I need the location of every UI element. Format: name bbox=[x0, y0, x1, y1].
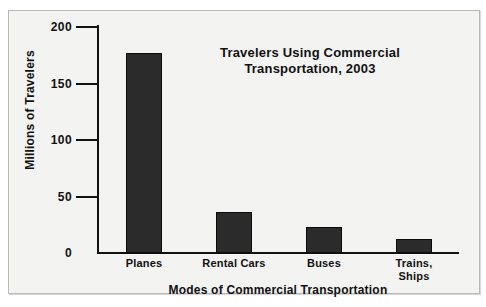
y-tick-label-wrap: 150 bbox=[9, 78, 72, 90]
chart-title: Travelers Using Commercial Transportatio… bbox=[179, 45, 441, 77]
y-tick-label-wrap: 100 bbox=[9, 134, 72, 146]
chart-title-line-2: Transportation, 2003 bbox=[179, 61, 441, 77]
x-category-label: Trains,Ships bbox=[369, 257, 459, 283]
x-category-label: Planes bbox=[99, 257, 189, 270]
x-category-label-line: Trains, bbox=[369, 257, 459, 270]
y-tick-label-wrap: 50 bbox=[9, 191, 72, 203]
y-axis-title: Millions of Travelers bbox=[23, 35, 37, 185]
y-tick-mark bbox=[76, 196, 97, 198]
y-tick-label: 0 bbox=[16, 247, 72, 259]
bar bbox=[216, 212, 252, 253]
y-tick-label: 50 bbox=[16, 191, 72, 203]
bar bbox=[126, 53, 162, 253]
x-category-label-line: Rental Cars bbox=[189, 257, 279, 270]
plot-area: 200150100500 Millions of Travelers Trave… bbox=[9, 11, 479, 293]
x-category-label-line: Buses bbox=[279, 257, 369, 270]
bar bbox=[306, 227, 342, 253]
y-tick-mark bbox=[76, 83, 97, 85]
x-category-label-line: Ships bbox=[369, 270, 459, 283]
x-category-label-line: Planes bbox=[99, 257, 189, 270]
y-tick-mark bbox=[76, 139, 97, 141]
bar bbox=[396, 239, 432, 253]
x-category-label: Buses bbox=[279, 257, 369, 270]
y-tick-label: 200 bbox=[16, 21, 72, 33]
y-axis-line bbox=[97, 25, 99, 254]
chart-title-line-1: Travelers Using Commercial bbox=[179, 45, 441, 61]
x-category-label: Rental Cars bbox=[189, 257, 279, 270]
chart-figure: 200150100500 Millions of Travelers Trave… bbox=[8, 10, 480, 294]
x-axis-title: Modes of Commercial Transportation bbox=[97, 283, 459, 297]
y-tick-mark bbox=[76, 26, 97, 28]
y-tick-label-wrap: 200 bbox=[9, 21, 72, 33]
y-tick-label-wrap: 0 bbox=[9, 247, 72, 259]
